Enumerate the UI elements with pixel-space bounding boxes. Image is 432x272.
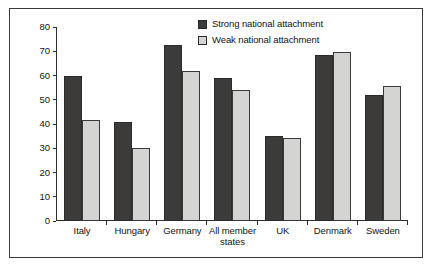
- y-axis-tick-mark: [53, 196, 56, 197]
- y-axis-tick-mark: [53, 221, 56, 222]
- bar[interactable]: [114, 122, 132, 221]
- chart-figure: Strong national attachment Weak national…: [9, 8, 423, 258]
- bar[interactable]: [365, 95, 383, 221]
- y-axis-tick-label: 80: [32, 22, 50, 32]
- y-axis-tick-label: 30: [32, 143, 50, 153]
- x-axis-category-label: Sweden: [358, 225, 408, 247]
- y-axis-tick-label: 20: [32, 168, 50, 178]
- bar-group: [157, 27, 207, 221]
- bar[interactable]: [232, 90, 250, 221]
- y-axis-tick-label: 70: [32, 46, 50, 56]
- bar[interactable]: [164, 45, 182, 221]
- bar-group: [107, 27, 157, 221]
- y-axis-tick-label: 10: [32, 192, 50, 202]
- x-axis-category-label: Hungary: [107, 225, 157, 247]
- y-axis-tick: 10: [32, 192, 56, 202]
- bar-group: [358, 27, 408, 221]
- y-axis-tick-mark: [53, 148, 56, 149]
- x-axis-category-label: All member states: [207, 225, 257, 247]
- y-axis-tick-label: 40: [32, 119, 50, 129]
- y-axis-tick: 60: [32, 71, 56, 81]
- bar-group: [258, 27, 308, 221]
- y-axis-tick: 80: [32, 22, 56, 32]
- bar[interactable]: [265, 136, 283, 221]
- y-axis-tick-mark: [53, 172, 56, 173]
- y-axis-tick-mark: [53, 27, 56, 28]
- x-axis-category-label: Denmark: [308, 225, 358, 247]
- bar-groups: [57, 27, 408, 221]
- y-axis-tick: 0: [32, 216, 56, 226]
- bar[interactable]: [283, 138, 301, 221]
- bar[interactable]: [333, 52, 351, 221]
- bar-group: [308, 27, 358, 221]
- y-axis-tick: 70: [32, 46, 56, 56]
- bar[interactable]: [182, 71, 200, 221]
- bar[interactable]: [82, 120, 100, 221]
- bar[interactable]: [214, 78, 232, 221]
- bar[interactable]: [132, 148, 150, 221]
- x-axis-category-labels: ItalyHungaryGermanyAll member statesUKDe…: [57, 225, 408, 247]
- x-axis-category-label: UK: [258, 225, 308, 247]
- y-axis-tick-mark: [53, 75, 56, 76]
- y-axis-tick: 30: [32, 143, 56, 153]
- y-axis-tick: 40: [32, 119, 56, 129]
- bar[interactable]: [64, 76, 82, 222]
- y-axis-tick-mark: [53, 124, 56, 125]
- bar-group: [207, 27, 257, 221]
- y-axis-tick: 20: [32, 168, 56, 178]
- y-axis-tick-mark: [53, 51, 56, 52]
- y-axis-tick-label: 0: [32, 216, 50, 226]
- bar-group: [57, 27, 107, 221]
- bar[interactable]: [315, 55, 333, 221]
- y-axis-tick-label: 60: [32, 71, 50, 81]
- y-axis-tick-label: 50: [32, 95, 50, 105]
- plot-area: 01020304050607080: [56, 27, 408, 221]
- x-axis-category-label: Italy: [57, 225, 107, 247]
- bar[interactable]: [383, 86, 401, 221]
- y-axis-tick-mark: [53, 99, 56, 100]
- x-axis-category-label: Germany: [157, 225, 207, 247]
- y-axis-tick: 50: [32, 95, 56, 105]
